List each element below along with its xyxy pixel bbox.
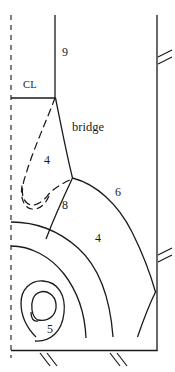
contour-spiral-5-inner xyxy=(32,292,56,321)
dashed-contour-4-tail xyxy=(21,186,49,209)
diagram-canvas xyxy=(0,0,175,372)
hatch-bottom-left-icon xyxy=(40,353,57,366)
contour-label-4-upper: 4 xyxy=(44,154,50,166)
contour-label-4-lower: 4 xyxy=(95,232,101,244)
hatch-right-upper-icon xyxy=(158,50,172,64)
wall-vertex-leg xyxy=(138,291,157,337)
contour-diagram-figure: CL bridge 9 4 8 6 4 5 xyxy=(0,0,175,372)
dashed-contour-4 xyxy=(22,98,72,205)
hatch-right-lower-icon xyxy=(158,248,172,262)
contour-curve-6 xyxy=(73,178,156,292)
bridge-right-edge xyxy=(56,98,73,178)
centerline-label: CL xyxy=(23,80,37,91)
hatch-bottom-right-icon xyxy=(110,353,127,366)
contour-label-6: 6 xyxy=(115,186,121,198)
bridge-label: bridge xyxy=(72,121,104,134)
contour-label-8: 8 xyxy=(62,199,68,211)
contour-label-9: 9 xyxy=(62,46,68,58)
contour-label-5: 5 xyxy=(47,323,53,335)
contour-spiral-5-outer xyxy=(21,281,64,341)
